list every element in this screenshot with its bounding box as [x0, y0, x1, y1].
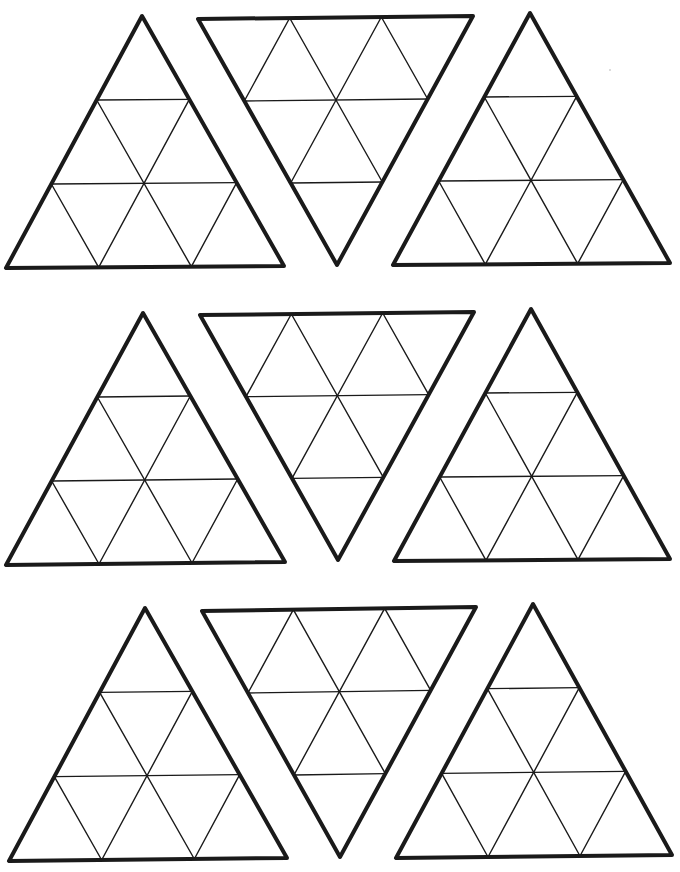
grid-line [439, 181, 486, 264]
triangle-outline [394, 309, 670, 561]
scan-speck [609, 69, 611, 71]
triangle-outline [396, 604, 672, 858]
grid-line [487, 688, 579, 689]
grid-line [191, 183, 236, 267]
grid-line [485, 392, 577, 393]
grid-line [192, 479, 238, 563]
grid-line [385, 608, 431, 690]
triangle-outline [200, 312, 474, 560]
grid-line [442, 773, 488, 857]
grid-line [194, 775, 239, 859]
grid-line [381, 17, 427, 99]
grid-line [440, 477, 486, 560]
grid-line [97, 99, 190, 100]
grid-line [246, 395, 429, 397]
grid-line [484, 96, 576, 97]
triangle-row1-left [6, 16, 284, 268]
grid-line [578, 180, 624, 264]
grid-line [246, 314, 291, 397]
grid-line [244, 99, 427, 101]
grid-line [100, 691, 193, 692]
triangle-row3-right [396, 604, 672, 858]
grid-line [51, 184, 98, 267]
grid-line [52, 481, 99, 564]
triangle-outline [393, 13, 670, 265]
grid-line [580, 771, 626, 856]
grid-line [97, 396, 190, 397]
triangle-outline [198, 16, 473, 265]
triangles-canvas [0, 0, 680, 872]
triangle-outline [9, 608, 287, 861]
grid-line [383, 313, 429, 395]
triangle-row1-middle [198, 16, 473, 265]
grid-line [244, 18, 289, 101]
triangle-outline [6, 16, 284, 268]
triangle-outline [6, 313, 285, 565]
triangle-outline [202, 607, 476, 857]
grid-line [54, 777, 101, 860]
triangle-row2-left [6, 313, 285, 565]
grid-line [578, 476, 624, 560]
triangle-row2-middle [200, 312, 474, 560]
triangle-row2-right [394, 309, 670, 561]
grid-line [292, 477, 383, 478]
grid-line [294, 774, 385, 775]
triangle-grid-worksheet [0, 0, 680, 872]
triangle-row3-left [9, 608, 287, 861]
grid-line [291, 182, 383, 183]
grid-line [248, 610, 293, 693]
triangle-row1-right [393, 13, 670, 265]
triangle-row3-middle [202, 607, 476, 857]
